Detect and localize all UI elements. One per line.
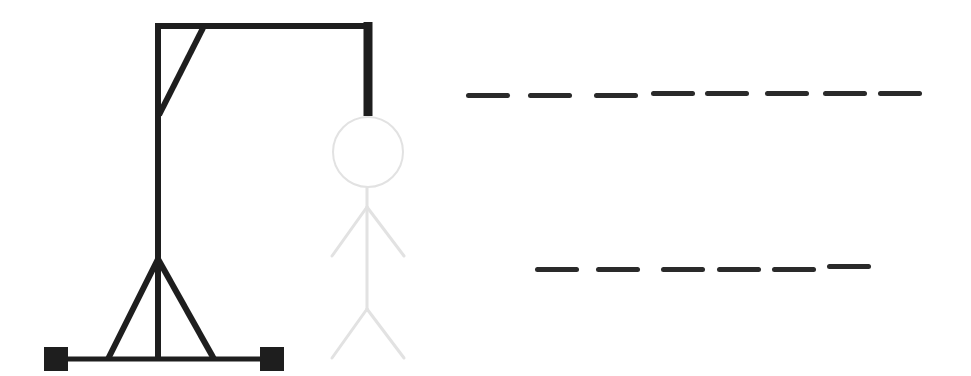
letter-blank [466,93,510,98]
figure-left-arm [332,207,367,256]
corner-brace [159,28,203,115]
letter-blank [705,91,749,96]
letter-blank [651,91,695,96]
figure-left-leg [332,309,367,358]
letter-blank [717,267,761,272]
hangman-drawing [0,0,971,376]
letter-blank [528,93,572,98]
figure-right-arm [367,207,404,256]
right-strut [158,259,214,359]
hangman-game-board [0,0,971,376]
letter-blank [827,264,871,269]
left-strut [108,259,158,359]
letter-blank [535,267,579,272]
letter-blank [878,91,922,96]
letter-blank [823,91,867,96]
left-foot [44,347,68,371]
figure-head [333,117,403,187]
letter-blank [594,93,638,98]
letter-blank [661,267,705,272]
letter-blank [772,267,816,272]
figure-right-leg [367,309,404,358]
right-foot [260,347,284,371]
gallows [44,22,372,371]
letter-blank [596,267,640,272]
letter-blank [765,91,809,96]
hanged-figure [332,117,404,358]
